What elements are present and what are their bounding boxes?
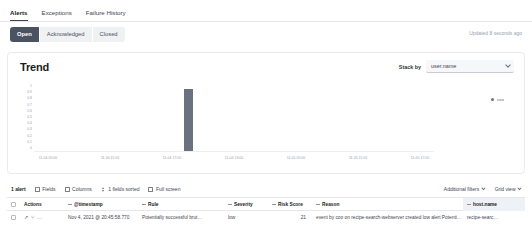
fields-button[interactable]: Fields (35, 186, 56, 192)
columns-button[interactable]: Columns (65, 186, 92, 192)
stack-by-select[interactable]: user.name (426, 60, 514, 73)
x-axis-tick: 11-05 17:00 (411, 156, 429, 160)
chevron-down-icon (481, 185, 485, 189)
x-axis-tick: 11-04 11:00 (101, 156, 119, 160)
sort-indicator-icon (68, 203, 72, 206)
status-filter-group: Open Acknowledged Closed (10, 27, 125, 42)
sort-indicator-icon (228, 203, 232, 206)
chart-plot-area (34, 89, 434, 151)
y-axis-tick: 0.4 (27, 122, 32, 126)
column-header-timestamp[interactable]: @timestamp (64, 198, 138, 211)
column-header-timestamp-label: @timestamp (74, 202, 103, 207)
y-axis-tick: 0.8 (27, 97, 32, 101)
fields-icon (35, 187, 40, 192)
tab-failure-history[interactable]: Failure History (86, 9, 126, 21)
y-axis-tick: 0.5 (27, 116, 32, 120)
x-axis-tick: 11-05 05:00 (287, 156, 305, 160)
y-axis-tick: 1 (30, 85, 32, 89)
select-all-checkbox[interactable] (11, 202, 16, 207)
chevron-down-icon (517, 185, 521, 189)
column-header-reason[interactable]: Reason (312, 198, 463, 211)
sort-fields-label: 1 fields sorted (108, 186, 139, 192)
trend-panel: Trend Stack by user.name 10.90.80.70.60.… (7, 52, 525, 174)
stack-by-control: Stack by user.name (399, 60, 514, 73)
tab-alerts[interactable]: Alerts (10, 9, 28, 21)
column-header-host-name[interactable]: host.name (463, 198, 525, 211)
x-axis-tick: 11-04 17:00 (163, 156, 181, 160)
y-axis-labels: 10.90.80.70.60.50.40.30.20.10 (18, 85, 32, 155)
row-select-cell (7, 215, 20, 220)
y-axis-tick: 0.1 (27, 141, 32, 145)
cell-timestamp: Nov 4, 2021 @ 20:45:58.770 (64, 211, 138, 224)
table-header-row: Actions @timestamp Rule Severity Risk Sc… (7, 198, 525, 211)
column-header-actions-label: Actions (24, 202, 42, 207)
select-all-cell (7, 202, 20, 207)
legend-color-dot (491, 98, 494, 101)
columns-label: Columns (72, 186, 92, 192)
column-header-rule-label: Rule (148, 202, 158, 207)
x-axis: 11-04 05:0011-04 11:0011-04 17:0011-04 2… (34, 151, 434, 163)
cell-host-name: recipe-searc… (463, 211, 525, 224)
additional-filters-label: Additional filters (444, 186, 479, 192)
y-axis-tick: 0.3 (27, 128, 32, 132)
row-actions-cell: ↗ ⑂ … (20, 215, 64, 220)
column-header-host-name-label: host.name (473, 202, 497, 207)
column-header-severity-label: Severity (234, 202, 253, 207)
sort-indicator-icon (272, 203, 276, 206)
x-axis-tick: 11-05 11:00 (349, 156, 367, 160)
additional-filters-button[interactable]: Additional filters (444, 186, 485, 192)
column-header-actions[interactable]: Actions (20, 198, 64, 211)
cell-risk-score: 21 (268, 211, 312, 224)
more-actions-icon[interactable]: … (37, 215, 42, 220)
columns-icon (65, 187, 70, 192)
column-header-risk-score-label: Risk Score (278, 202, 303, 207)
sort-indicator-icon (142, 203, 146, 206)
y-axis-tick: 0.9 (27, 91, 32, 95)
sort-icon (101, 187, 106, 192)
stack-by-value: user.name (431, 63, 456, 69)
status-filter-closed[interactable]: Closed (93, 27, 125, 42)
x-axis-tick: 11-04 23:00 (225, 156, 243, 160)
analyze-event-icon[interactable]: ⑂ (31, 215, 34, 220)
row-select-checkbox[interactable] (11, 215, 16, 220)
full-screen-button[interactable]: Full screen (148, 186, 180, 192)
primary-tab-bar: Alerts Exceptions Failure History (0, 0, 532, 22)
full-screen-label: Full screen (156, 186, 180, 192)
chevron-down-icon (505, 62, 511, 68)
status-filter-row: Open Acknowledged Closed Updated 8 secon… (0, 22, 532, 42)
table-row[interactable]: ↗ ⑂ … Nov 4, 2021 @ 20:45:58.770 Potenti… (7, 211, 525, 224)
tab-exceptions[interactable]: Exceptions (42, 9, 72, 21)
grid-view-label: Grid view (495, 186, 516, 192)
status-filter-open[interactable]: Open (10, 27, 40, 42)
chart-legend[interactable]: coo (491, 97, 504, 102)
legend-label: coo (497, 97, 504, 102)
status-filter-acknowledged[interactable]: Acknowledged (40, 27, 93, 42)
sort-fields-button[interactable]: 1 fields sorted (101, 186, 140, 192)
fields-label: Fields (42, 186, 55, 192)
trend-panel-header: Trend Stack by user.name (8, 53, 524, 83)
column-header-severity[interactable]: Severity (224, 198, 268, 211)
expand-icon (148, 187, 153, 192)
y-axis-tick: 0.6 (27, 110, 32, 114)
y-axis-tick: 0 (30, 147, 32, 151)
sort-indicator-icon (467, 203, 471, 206)
alert-count: 1 alert (11, 186, 26, 192)
column-header-reason-label: Reason (322, 202, 339, 207)
cell-reason: event by coo on recipe-search-webserver … (312, 211, 463, 224)
toolbar-right-group: Additional filters Grid view (444, 182, 521, 196)
cell-severity: low (224, 211, 268, 224)
table-toolbar: 1 alert Fields Columns 1 fields sorted F… (7, 182, 525, 196)
column-header-risk-score[interactable]: Risk Score (268, 198, 312, 211)
column-header-rule[interactable]: Rule (138, 198, 224, 211)
grid-view-button[interactable]: Grid view (495, 186, 521, 192)
x-axis-tick: 11-04 05:00 (39, 156, 57, 160)
trend-chart: 10.90.80.70.60.50.40.30.20.10 11-04 05:0… (8, 83, 526, 173)
chart-bar[interactable] (184, 89, 193, 151)
sort-indicator-icon (316, 203, 320, 206)
expand-alert-icon[interactable]: ↗ (24, 215, 28, 220)
alerts-table: Actions @timestamp Rule Severity Risk Sc… (7, 197, 525, 235)
cell-rule: Potentially successful brut… (138, 211, 224, 224)
y-axis-tick: 0.2 (27, 135, 32, 139)
y-axis-tick: 0.7 (27, 104, 32, 108)
stack-by-label: Stack by (399, 64, 421, 70)
